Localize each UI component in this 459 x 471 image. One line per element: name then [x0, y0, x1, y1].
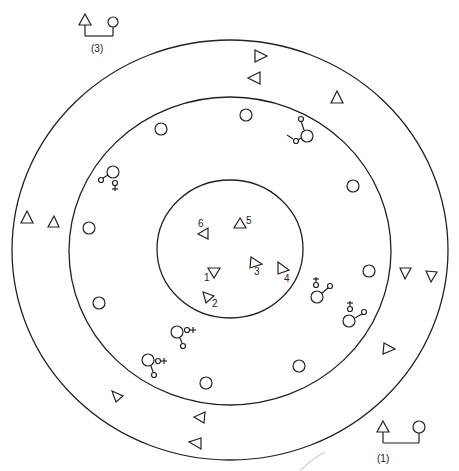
female-symbol-icon — [328, 284, 333, 289]
legend-3-label: (3) — [91, 43, 103, 54]
inner-ring — [157, 180, 303, 318]
label-3: 3 — [254, 266, 260, 277]
female-circle-icon — [293, 360, 305, 372]
legend-3: (3) — [79, 14, 118, 54]
label-5: 5 — [246, 215, 252, 226]
couple-1 — [287, 117, 313, 144]
kinship-diagram: (3) (1) 1 2 3 4 5 6 — [0, 0, 459, 471]
female-circle-icon — [171, 326, 183, 338]
female-circle-icon — [155, 123, 167, 135]
legend-1: (1) — [377, 421, 425, 464]
female-circle-icon — [83, 222, 95, 234]
male-symbol-icon — [348, 307, 353, 312]
couple-5 — [171, 326, 196, 349]
couple-3 — [311, 277, 333, 303]
female-symbol-icon — [299, 117, 304, 122]
label-2: 2 — [212, 298, 218, 309]
female-circle-icon — [347, 180, 359, 192]
female-circle-icon — [301, 130, 313, 142]
triangle-icon — [400, 268, 411, 279]
female-circle-icon — [107, 166, 119, 178]
female-symbol-icon — [362, 310, 367, 315]
triangle-icon — [331, 91, 343, 103]
triangle-icon — [194, 412, 205, 423]
female-circle-icon — [200, 377, 212, 389]
male-symbol-icon — [185, 328, 190, 333]
triangle-icon — [426, 271, 437, 282]
triangle-icon — [248, 72, 260, 84]
female-circle-icon — [343, 315, 355, 327]
label-6: 6 — [198, 218, 204, 229]
couple-2 — [99, 166, 120, 191]
middle-circles — [83, 109, 375, 389]
legend-1-label: (1) — [377, 453, 389, 464]
triangle-icon-5 — [234, 218, 246, 228]
female-symbol-icon — [181, 344, 186, 349]
female-circle-icon — [311, 291, 323, 303]
couple-4 — [343, 301, 367, 327]
triangle-icon-6 — [198, 228, 208, 239]
male-triangle-icon — [377, 421, 389, 432]
outer-triangles — [21, 50, 437, 449]
female-circle-icon — [413, 421, 425, 433]
triangle-icon — [48, 216, 59, 227]
inner-group: 1 2 3 4 5 6 — [198, 215, 290, 309]
triangle-icon — [21, 211, 33, 223]
middle-ring — [69, 97, 391, 405]
male-symbol-icon — [156, 359, 161, 364]
female-circle-icon — [240, 109, 252, 121]
triangle-icon — [255, 50, 267, 62]
label-1: 1 — [204, 272, 210, 283]
female-circle-icon — [142, 354, 154, 366]
female-symbol-icon — [152, 373, 157, 378]
male-symbol-icon — [294, 139, 299, 144]
label-4: 4 — [284, 273, 290, 284]
triangle-icon — [112, 391, 123, 402]
male-triangle-icon — [79, 14, 91, 25]
triangle-icon — [383, 343, 395, 354]
female-symbol-icon — [113, 181, 118, 186]
triangle-icon — [189, 438, 201, 449]
couple-6 — [142, 354, 167, 378]
female-circle-icon — [363, 265, 375, 277]
female-circle-icon — [93, 297, 105, 309]
female-circle-icon — [108, 17, 118, 27]
triangle-icon-1 — [208, 268, 220, 278]
male-symbol-icon — [314, 283, 319, 288]
pencil-mark — [300, 452, 325, 471]
outer-ring — [12, 40, 448, 460]
male-symbol-icon — [99, 178, 104, 183]
